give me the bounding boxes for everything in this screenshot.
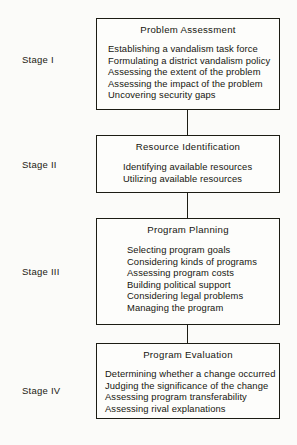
- box-title-1: Problem Assessment: [97, 24, 279, 35]
- list-item: Judging the significance of the change: [105, 380, 279, 392]
- stage-label-1: Stage I: [22, 54, 54, 65]
- list-item: Utilizing available resources: [123, 173, 279, 185]
- connector-stage-2-to-3: [187, 193, 188, 218]
- stage-label-4: Stage IV: [22, 385, 60, 396]
- box-list-1: Establishing a vandalism task force Form…: [97, 43, 279, 101]
- list-item: Selecting program goals: [127, 244, 279, 256]
- list-item: Considering kinds of programs: [127, 256, 279, 268]
- box-list-3: Selecting program goals Considering kind…: [97, 244, 279, 314]
- list-item: Establishing a vandalism task force: [108, 43, 279, 55]
- list-item: Managing the program: [127, 302, 279, 314]
- box-list-2: Identifying available resources Utilizin…: [97, 161, 279, 184]
- stage-box-program-planning: Program Planning Selecting program goals…: [96, 218, 280, 325]
- list-item: Determining whether a change occurred: [105, 368, 279, 380]
- connector-stage-1-to-2: [187, 110, 188, 135]
- list-item: Assessing the extent of the problem: [108, 66, 279, 78]
- box-list-4: Determining whether a change occurred Ju…: [97, 368, 279, 414]
- stage-label-2: Stage II: [22, 159, 57, 170]
- connector-stage-3-to-4: [187, 325, 188, 343]
- list-item: Uncovering security gaps: [108, 89, 279, 101]
- list-item: Considering legal problems: [127, 290, 279, 302]
- list-item: Assessing program transferability: [105, 391, 279, 403]
- box-title-2: Resource Identification: [97, 141, 279, 152]
- box-title-4: Program Evaluation: [97, 349, 279, 360]
- list-item: Assessing program costs: [127, 267, 279, 279]
- list-item: Assessing the impact of the problem: [108, 78, 279, 90]
- list-item: Building political support: [127, 279, 279, 291]
- stage-box-resource-identification: Resource Identification Identifying avai…: [96, 135, 280, 193]
- box-title-3: Program Planning: [97, 224, 279, 235]
- list-item: Formulating a district vandalism policy: [108, 55, 279, 67]
- list-item: Assessing rival explanations: [105, 403, 279, 415]
- stage-box-program-evaluation: Program Evaluation Determining whether a…: [96, 343, 280, 419]
- stage-label-3: Stage III: [22, 266, 60, 277]
- list-item: Identifying available resources: [123, 161, 279, 173]
- stage-box-problem-assessment: Problem Assessment Establishing a vandal…: [96, 18, 280, 110]
- stage-flowchart: Stage I Problem Assessment Establishing …: [0, 0, 297, 445]
